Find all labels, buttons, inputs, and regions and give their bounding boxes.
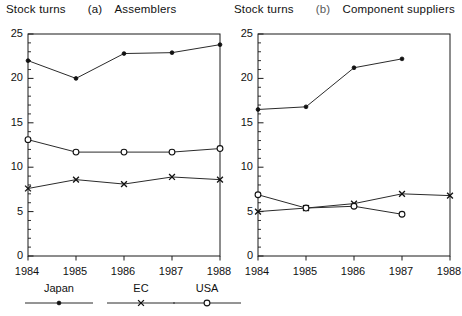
y-tick-label: 15 xyxy=(0,116,23,128)
chart-legend: JapanECUSA xyxy=(0,282,231,316)
legend-swatch-x xyxy=(104,297,178,309)
data-point-japan-4 xyxy=(218,43,222,47)
data-point-usa-3 xyxy=(169,149,175,155)
chart-panel-b: Stock turns (b) Component suppliers 0510… xyxy=(228,0,462,280)
data-point-usa-0 xyxy=(255,192,261,198)
legend-marker-japan xyxy=(57,301,61,305)
x-tick-label: 1985 xyxy=(293,265,317,277)
legend-item-ec: EC xyxy=(104,282,178,309)
panel-b-title: Stock turns (b) Component suppliers xyxy=(234,3,455,15)
series-line-japan xyxy=(28,45,220,79)
y-tick-label: 10 xyxy=(0,160,23,172)
data-point-japan-2 xyxy=(122,52,126,56)
legend-swatch-filled-dot xyxy=(22,297,96,309)
panel-a-title: Stock turns (a) Assemblers xyxy=(6,3,176,15)
panel-a-name: Assemblers xyxy=(114,3,176,15)
legend-item-usa: USA xyxy=(170,282,244,309)
panel-b-name: Component suppliers xyxy=(342,3,454,15)
series-line-usa xyxy=(258,195,402,215)
data-point-usa-1 xyxy=(303,205,309,211)
data-point-japan-1 xyxy=(304,105,308,109)
panel-a-id: (a) xyxy=(88,3,103,15)
x-tick-label: 1985 xyxy=(63,265,87,277)
y-tick-label: 20 xyxy=(0,71,23,83)
x-tick-label: 1984 xyxy=(245,265,269,277)
panel-b-id: (b) xyxy=(316,3,331,15)
figure-stock-turns: Stock turns (a) Assemblers 0510152025 19… xyxy=(0,0,462,316)
x-tick-label: 1987 xyxy=(389,265,413,277)
legend-label: USA xyxy=(170,282,244,295)
data-point-usa-2 xyxy=(121,149,127,155)
data-point-usa-0 xyxy=(25,137,31,143)
y-tick-label: 10 xyxy=(229,160,253,172)
data-point-usa-2 xyxy=(351,203,357,209)
panel-a-ylabel: Stock turns xyxy=(6,3,66,15)
x-tick-label: 1986 xyxy=(111,265,135,277)
legend-item-japan: Japan xyxy=(22,282,96,309)
legend-marker-usa xyxy=(204,300,210,306)
panel-a-plot-area xyxy=(27,33,221,257)
y-tick-label: 5 xyxy=(229,205,253,217)
y-tick-label: 20 xyxy=(229,71,253,83)
plot-a-svg xyxy=(27,33,221,257)
x-tick-label: 1988 xyxy=(437,265,461,277)
data-point-usa-1 xyxy=(73,149,79,155)
data-point-japan-3 xyxy=(400,57,404,61)
series-line-japan xyxy=(258,59,402,110)
plot-b-svg xyxy=(257,33,451,257)
data-point-japan-2 xyxy=(352,66,356,70)
data-point-japan-1 xyxy=(74,77,78,81)
y-tick-label: 5 xyxy=(0,205,23,217)
data-point-usa-4 xyxy=(217,146,223,152)
panel-b-plot-area xyxy=(257,33,451,257)
data-point-usa-3 xyxy=(399,211,405,217)
legend-swatch-open-circle xyxy=(170,297,244,309)
y-tick-label: 25 xyxy=(0,27,23,39)
x-tick-label: 1986 xyxy=(341,265,365,277)
y-tick-label: 25 xyxy=(229,27,253,39)
x-tick-label: 1984 xyxy=(15,265,39,277)
data-point-japan-0 xyxy=(256,108,260,112)
data-point-japan-0 xyxy=(26,59,30,63)
y-tick-label: 15 xyxy=(229,116,253,128)
legend-label: Japan xyxy=(22,282,96,295)
chart-panel-a: Stock turns (a) Assemblers 0510152025 19… xyxy=(0,0,231,280)
y-tick-label: 0 xyxy=(0,249,23,261)
x-tick-label: 1987 xyxy=(159,265,183,277)
y-tick-label: 0 xyxy=(229,249,253,261)
series-line-ec xyxy=(28,177,220,189)
legend-label: EC xyxy=(104,282,178,295)
data-point-japan-3 xyxy=(170,51,174,55)
panel-b-ylabel: Stock turns xyxy=(234,3,294,15)
